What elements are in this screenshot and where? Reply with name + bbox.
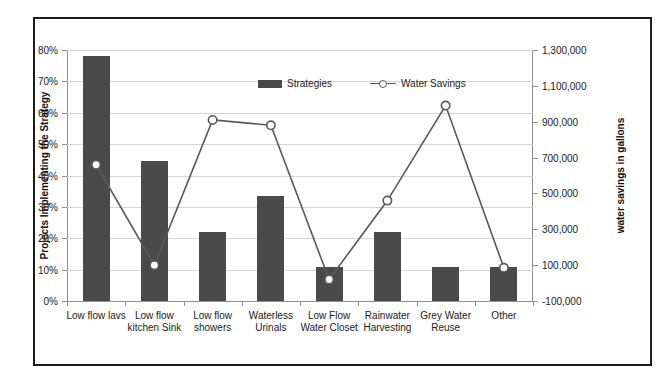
left-axis-tick-label: 10%: [38, 264, 58, 275]
x-axis-tick: [533, 301, 534, 306]
x-axis-tick: [67, 301, 68, 306]
right-axis-tick: [533, 265, 538, 266]
left-axis-tick: [62, 270, 67, 271]
right-axis-tick-label: 700,000: [542, 152, 578, 163]
right-axis-tick: [533, 193, 538, 194]
left-axis-tick: [62, 144, 67, 145]
right-axis-tick-label: 300,000: [542, 224, 578, 235]
chart-canvas: Projects Implementing the Strategy water…: [0, 0, 672, 384]
gridline: [67, 113, 533, 114]
x-axis-tick: [358, 301, 359, 306]
right-axis-tick-label: 500,000: [542, 188, 578, 199]
line-marker: [441, 101, 449, 109]
right-axis-tick: [533, 158, 538, 159]
x-axis-tick: [417, 301, 418, 306]
left-axis-tick-label: 0%: [44, 296, 58, 307]
left-axis-tick: [62, 50, 67, 51]
bar: [199, 232, 226, 301]
bar: [83, 56, 110, 301]
line-marker: [383, 196, 391, 204]
right-axis-tick-label: 100,000: [542, 260, 578, 271]
gridline: [67, 50, 533, 51]
bar: [316, 267, 343, 302]
bar: [490, 267, 517, 302]
line-marker: [267, 121, 275, 129]
x-axis-tick: [242, 301, 243, 306]
gridline: [67, 176, 533, 177]
gridline: [67, 270, 533, 271]
chart-legend: Strategies Water Savings: [258, 78, 466, 89]
right-axis-tick-label: 1,300,000: [542, 45, 587, 56]
gridline: [67, 207, 533, 208]
gridline: [67, 238, 533, 239]
x-axis-tick: [300, 301, 301, 306]
right-axis-tick: [533, 229, 538, 230]
right-axis-title-text: water savings in gallons: [616, 118, 627, 234]
left-axis-tick-label: 40%: [38, 170, 58, 181]
left-axis-tick: [62, 176, 67, 177]
bar: [432, 267, 459, 302]
left-axis-tick: [62, 81, 67, 82]
x-axis-category-label: Other: [464, 310, 544, 322]
left-axis-tick-label: 80%: [38, 45, 58, 56]
left-axis-tick: [62, 113, 67, 114]
left-axis-tick: [62, 238, 67, 239]
right-axis-tick-label: -100,000: [542, 296, 581, 307]
legend-label-water-savings: Water Savings: [401, 78, 466, 89]
bar: [141, 161, 168, 301]
right-axis-tick-label: 1,100,000: [542, 80, 587, 91]
right-axis-tick: [533, 122, 538, 123]
right-axis-title: water savings in gallons: [614, 50, 628, 301]
legend-item-strategies: Strategies: [258, 78, 332, 89]
right-axis-tick: [533, 86, 538, 87]
legend-item-water-savings: Water Savings: [370, 78, 466, 89]
line-marker: [208, 116, 216, 124]
left-axis-tick-label: 70%: [38, 76, 58, 87]
line-marker-swatch-icon: [370, 79, 396, 89]
right-axis-tick-label: 900,000: [542, 116, 578, 127]
legend-label-strategies: Strategies: [287, 78, 332, 89]
bar: [374, 232, 401, 301]
x-axis-tick: [475, 301, 476, 306]
left-axis-tick: [62, 207, 67, 208]
left-axis-tick-label: 30%: [38, 201, 58, 212]
right-axis-tick: [533, 50, 538, 51]
gridline: [67, 144, 533, 145]
left-axis-tick-label: 60%: [38, 107, 58, 118]
x-axis-tick: [125, 301, 126, 306]
x-axis-tick: [184, 301, 185, 306]
bar: [257, 196, 284, 301]
left-axis-tick-label: 20%: [38, 233, 58, 244]
left-axis-tick-label: 50%: [38, 139, 58, 150]
bar-swatch-icon: [258, 80, 282, 88]
